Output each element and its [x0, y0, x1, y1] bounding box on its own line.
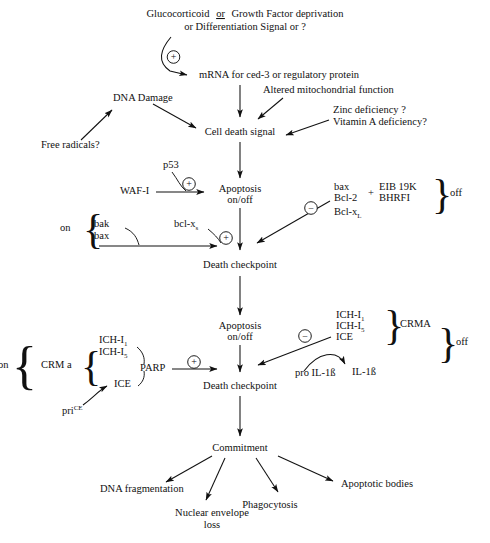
node-death-checkpoint-2: Death checkpoint: [203, 380, 277, 391]
inhibitor-eib19k: EIB 19K: [379, 181, 417, 192]
regulator-bax-lower: bax: [94, 230, 110, 241]
brace-on-upper: {: [83, 206, 103, 252]
apoptosis-pathway-diagram: Glucocorticoid or Growth Factor deprivat…: [0, 0, 490, 543]
outcome-phagocytosis: Phagocytosis: [242, 499, 297, 510]
node-cell-death-signal: Cell death signal: [205, 126, 276, 137]
plus-sign-stimulus: +: [171, 51, 177, 62]
plus-sign-bak-bax: +: [223, 232, 229, 243]
node-vitamin-a-deficiency: Vitamin A deficiency?: [333, 116, 427, 127]
inhibitor-bcl2: Bcl-2: [334, 192, 357, 203]
stimulus-line-1: Glucocorticoid or Growth Factor deprivat…: [147, 8, 345, 19]
regulator-crma-left: CRM a: [41, 359, 72, 370]
node-altered-mitochondrial-function: Altered mitochondrial function: [263, 84, 394, 95]
inhibitor-bax: bax: [334, 181, 350, 192]
regulator-waf1: WAF-I: [120, 185, 150, 196]
minus-sign-upper: −: [308, 203, 314, 214]
node-apoptosis-1-line1: Apoptosis: [219, 183, 262, 194]
regulator-bak: bak: [94, 218, 110, 229]
outcome-apoptotic-bodies: Apoptotic bodies: [341, 478, 413, 489]
canvas-background: [0, 0, 490, 543]
plus-sign-waf1: +: [186, 178, 192, 189]
outcome-nuclear-envelope-loss-line1: Nuclear envelope: [175, 507, 249, 518]
regulator-p53: p53: [163, 159, 179, 170]
label-on-lower: on: [0, 359, 9, 370]
brace-on-lower-outer: {: [12, 337, 37, 394]
outcome-nuclear-envelope-loss-line2: loss: [204, 519, 220, 530]
node-apoptosis-2-line2: on/off: [227, 331, 253, 342]
node-il1b: IL-1ß: [352, 366, 376, 377]
regulator-ice-left: ICE: [114, 378, 131, 389]
plus-sign-parp: +: [191, 356, 197, 367]
regulator-parp: PARP: [140, 362, 165, 373]
regulator-ice-right: ICE: [336, 331, 353, 342]
label-off-upper: off: [450, 187, 463, 198]
node-zinc-deficiency: Zinc deficiency ?: [333, 104, 406, 115]
outcome-dna-fragmentation: DNA fragmentation: [100, 483, 184, 494]
node-mrna: mRNA for ced-3 or regulatory protein: [199, 69, 360, 80]
label-off-lower: off: [456, 336, 469, 347]
node-free-radicals: Free radicals?: [41, 139, 100, 150]
node-commitment: Commitment: [212, 442, 268, 453]
label-on-upper: on: [60, 222, 71, 233]
node-dna-damage: DNA Damage: [113, 92, 173, 103]
plus-join-symbol: +: [368, 187, 374, 198]
node-death-checkpoint-1: Death checkpoint: [203, 259, 277, 270]
inhibitor-bhrfi: BHRFI: [379, 192, 410, 203]
node-apoptosis-2-line1: Apoptosis: [219, 320, 262, 331]
label-crma-right: CRMA: [400, 318, 431, 329]
stimulus-line-2: or Differentiation Signal or ?: [184, 21, 306, 32]
minus-sign-lower: −: [302, 331, 308, 342]
node-apoptosis-1-line2: on/off: [227, 194, 253, 205]
node-pro-il1b: pro IL-1ß: [295, 367, 336, 378]
